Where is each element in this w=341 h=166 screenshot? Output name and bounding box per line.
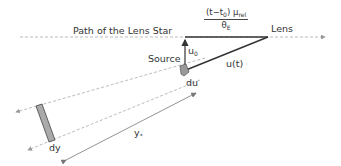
u0-label: u0 — [188, 46, 198, 57]
dy-label: dy — [49, 143, 61, 153]
trajectory-fraction: (t−t0) μrel θE — [204, 8, 248, 31]
light-ray-upper — [16, 58, 205, 112]
ystar-label: y* — [134, 128, 143, 139]
lens-label: Lens — [271, 24, 293, 34]
ystar-arrow — [66, 93, 196, 160]
detector-element — [36, 104, 55, 142]
fraction-numerator: (t−t0) μrel — [204, 8, 248, 20]
du-label: du — [186, 78, 198, 88]
fraction-denominator: θE — [204, 20, 248, 31]
ut-label: u(t) — [226, 59, 243, 69]
source-element — [180, 64, 189, 76]
source-label: Source — [148, 54, 181, 64]
lens-path-label: Path of the Lens Star — [73, 26, 172, 36]
